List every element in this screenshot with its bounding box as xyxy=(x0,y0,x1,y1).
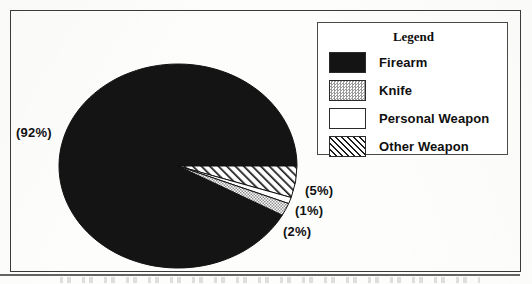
chart-screenshot: (92%) (5%) (1%) (2%) Legend Firearm Knif… xyxy=(0,0,532,284)
chart-border-frame xyxy=(10,10,521,272)
page-bottom-rule xyxy=(0,274,520,276)
